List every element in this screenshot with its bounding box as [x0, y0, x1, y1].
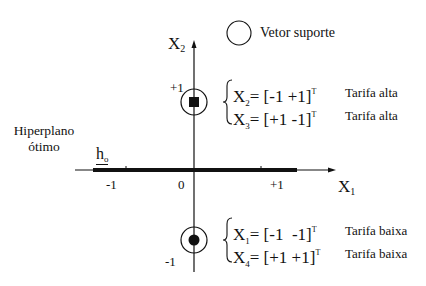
hyperplane-symbol: ho [96, 146, 109, 164]
x1-axis-name: X [338, 177, 350, 196]
vector-transpose: T [315, 248, 320, 257]
vector-transpose: T [312, 225, 317, 234]
x2-axis-subscript: 2 [180, 43, 185, 54]
vector-value: = [+1 -1] [250, 110, 312, 129]
tick-label-y-minus1: -1 [165, 255, 176, 268]
hyperplane-symbol-h: h [96, 145, 104, 162]
dot-marker-icon [189, 235, 200, 246]
equation-row-x1: X1= [-1 -1]T Tarifa baixa [233, 219, 317, 241]
class-label-x4: Tarifa baixa [345, 243, 407, 265]
vector-transpose: T [311, 87, 316, 96]
equation-row-x3: X3= [+1 -1]T Tarifa alta [233, 104, 316, 126]
hyperplane-label: Hiperplano ótimo [4, 123, 84, 155]
equation-x4: X4= [+1 +1]T [233, 242, 320, 275]
class-label-x3: Tarifa alta [345, 105, 398, 127]
brace-upper-icon [223, 80, 232, 124]
x1-axis-arrow-icon [328, 168, 336, 173]
x1-axis-label: X1 [338, 178, 355, 197]
x2-axis-name: X [168, 34, 180, 53]
vector-value: = [+1 +1] [250, 248, 316, 267]
tick-label-x-plus1: +1 [270, 178, 284, 191]
hyperplane-label-line2: ótimo [4, 139, 84, 155]
equation-x3: X3= [+1 -1]T [233, 104, 316, 137]
x2-axis-label: X2 [168, 35, 185, 54]
tick-label-x-minus1: -1 [106, 178, 117, 191]
vector-transpose: T [311, 110, 316, 119]
tick-label-y-plus1: +1 [170, 81, 184, 94]
equation-row-x4: X4= [+1 +1]T Tarifa baixa [233, 242, 320, 264]
x1-axis-subscript: 1 [350, 186, 355, 197]
brace-lower-icon [223, 218, 232, 262]
legend-label: Vetor suporte [260, 26, 335, 40]
class-label-x2: Tarifa alta [345, 82, 398, 104]
hyperplane-label-line1: Hiperplano [4, 123, 84, 139]
hyperplane-symbol-underline [96, 164, 108, 165]
square-marker-icon [189, 97, 199, 107]
vector-name: X [233, 248, 245, 267]
tick-label-origin: 0 [178, 178, 185, 191]
legend-circle-icon [227, 21, 251, 45]
class-label-x1: Tarifa baixa [345, 220, 407, 242]
vector-name: X [233, 110, 245, 129]
x2-axis-arrow-icon [192, 40, 197, 48]
equation-row-x2: X2= [-1 +1]T Tarifa alta [233, 81, 316, 103]
hyperplane-symbol-subscript: o [104, 154, 109, 164]
